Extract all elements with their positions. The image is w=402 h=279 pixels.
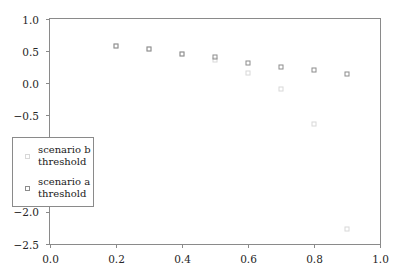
data-point-marker <box>279 87 284 92</box>
data-point-marker <box>180 51 185 56</box>
legend-item-a: scenario a threshold <box>13 172 93 204</box>
x-axis-tick: 0.4 <box>182 244 183 248</box>
chart-legend: scenario b thresholdscenario a threshold <box>12 137 94 207</box>
x-axis-tick-label: 0.0 <box>42 254 59 265</box>
data-point-marker <box>312 68 317 73</box>
scatter-chart-figure: 1.00.50.0−0.5−1.0−1.5−2.0−2.50.00.20.40.… <box>0 0 402 279</box>
x-axis-tick: 0.8 <box>314 244 315 248</box>
y-axis-tick-label: −2.5 <box>14 239 40 250</box>
x-axis-tick: 0.6 <box>248 244 249 248</box>
open-square-icon <box>25 154 30 159</box>
data-point-marker <box>246 61 251 66</box>
y-axis-tick: 0.0 <box>46 83 50 84</box>
data-point-marker <box>279 65 284 70</box>
x-axis-tick-label: 0.4 <box>174 254 191 265</box>
y-axis-tick-label: 1.0 <box>22 14 39 25</box>
data-point-marker <box>114 44 119 49</box>
x-axis-tick-label: 0.2 <box>108 254 125 265</box>
plot-area: 1.00.50.0−0.5−1.0−1.5−2.0−2.50.00.20.40.… <box>49 18 381 245</box>
x-axis-tick-label: 1.0 <box>372 254 389 265</box>
y-axis-tick-label: −2.0 <box>14 207 40 218</box>
legend-item-label: scenario b threshold <box>38 144 91 168</box>
legend-marker-icon <box>19 154 35 159</box>
y-axis-tick-label: 0.0 <box>22 79 39 90</box>
y-axis-tick: 1.0 <box>46 19 50 20</box>
data-point-marker <box>213 54 218 59</box>
open-square-icon <box>25 186 30 191</box>
data-point-marker <box>312 121 317 126</box>
data-point-marker <box>246 71 251 76</box>
legend-item-b: scenario b threshold <box>13 140 93 172</box>
data-point-marker <box>147 47 152 52</box>
y-axis-tick-label: 0.5 <box>22 46 39 57</box>
x-axis-tick-label: 0.6 <box>240 254 257 265</box>
x-axis-tick: 0.2 <box>116 244 117 248</box>
y-axis-tick: −2.0 <box>46 212 50 213</box>
x-axis-tick: 1.0 <box>380 244 381 248</box>
x-axis-tick-label: 0.8 <box>306 254 323 265</box>
legend-marker-icon <box>19 186 35 191</box>
y-axis-tick: 0.5 <box>46 51 50 52</box>
y-axis-tick: −0.5 <box>46 115 50 116</box>
data-point-marker <box>345 227 350 232</box>
y-axis-tick-label: −0.5 <box>14 111 40 122</box>
legend-item-label: scenario a threshold <box>38 176 90 200</box>
x-axis-tick: 0.0 <box>50 244 51 248</box>
data-point-marker <box>345 71 350 76</box>
